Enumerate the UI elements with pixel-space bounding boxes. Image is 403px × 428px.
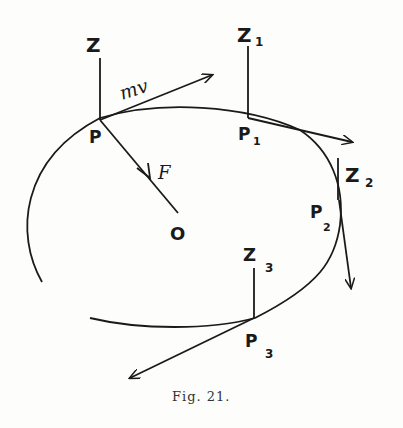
label-Z2: Z: [345, 163, 360, 187]
orbit-diagram: Z P mv F O Z 1 P 1 Z 2 P 2 Z 3 P 3 Fig. …: [0, 0, 403, 428]
orbit-curve: [27, 107, 341, 327]
label-mv: mv: [116, 74, 150, 104]
velocity-arrow-P1: [248, 118, 352, 142]
label-Z1-sub: 1: [255, 35, 263, 49]
figure-caption: Fig. 21.: [172, 389, 230, 404]
label-Z3-sub: 3: [265, 261, 273, 275]
label-P1-sub: 1: [253, 135, 261, 148]
figure-21: Z P mv F O Z 1 P 1 Z 2 P 2 Z 3 P 3 Fig. …: [0, 0, 403, 428]
label-P2: P: [310, 202, 322, 222]
label-Z2-sub: 2: [365, 176, 373, 190]
label-Z3: Z: [243, 244, 256, 265]
label-P3: P: [245, 331, 257, 351]
label-P3-sub: 3: [265, 347, 273, 361]
label-Z: Z: [86, 33, 101, 57]
label-O: O: [170, 223, 185, 244]
label-P: P: [89, 127, 101, 147]
velocity-arrow-P2: [339, 200, 351, 288]
label-Z1: Z: [237, 23, 252, 47]
label-P2-sub: 2: [323, 221, 331, 234]
label-P1: P: [238, 124, 250, 144]
label-F: F: [157, 162, 172, 183]
